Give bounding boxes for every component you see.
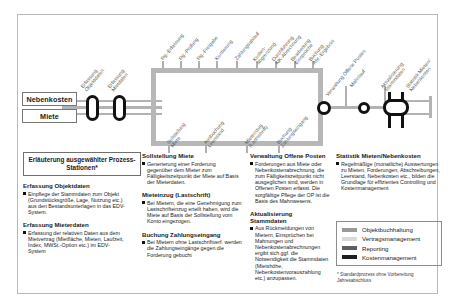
legend-label: Objektbuchhaltung	[362, 226, 413, 233]
explanation-title-box: Erläuterung ausgewählter Prozess-Station…	[23, 152, 141, 176]
node-verwaltung-offene-posten[interactable]	[317, 101, 331, 115]
tick-right-1	[345, 86, 347, 106]
node-statistik[interactable]	[383, 99, 409, 116]
block-text: Einpflege der Stammdaten zum Objekt (Gru…	[23, 191, 127, 216]
block-heading: Sollstellung Miete	[142, 152, 242, 159]
input-box-nebenkosten[interactable]: Nebenkosten	[22, 92, 77, 106]
bullet-icon	[142, 162, 145, 165]
text-column-4: Statistik Mieten/Nebenkosten Regelmäßige…	[336, 152, 442, 198]
pipe-miete	[62, 113, 162, 116]
text-column-2: Sollstellung Miete Generierung einer For…	[142, 152, 242, 264]
block-heading: Buchung Zahlungseingang	[142, 231, 242, 238]
text-block-verwaltung-offene-posten: Verwaltung Offene Posten Forderungen aus…	[250, 152, 330, 204]
label-right-aktualisierung-stammdaten: Aktualisierung Stammdaten	[380, 61, 409, 92]
tick-top-1	[162, 61, 164, 69]
block-text: Forderungen aus Miete oder Nebenkostenab…	[250, 161, 330, 204]
text-column-1: Erfassung Objektdaten Einpflege der Stam…	[23, 182, 127, 261]
label-right-statistik-mieten-nebenkosten: Statistik Mieten/ Nebenkosten	[405, 58, 436, 92]
label-erfassung-objektdaten: Erfassung Objektdaten	[80, 65, 106, 93]
bullet-icon	[23, 192, 26, 195]
text-block-statistik: Statistik Mieten/Nebenkosten Regelmäßige…	[336, 152, 442, 192]
block-text: Bei Mietern, die eine Genehmigung zum La…	[142, 200, 242, 225]
node-erfassung-mietdaten[interactable]	[113, 95, 126, 121]
tick-top-5	[236, 61, 238, 69]
bullet-icon	[250, 162, 253, 165]
block-heading: Erfassung Objektdaten	[23, 182, 127, 189]
block-text: Bei Mietern ohne Lastschriftverf. werden…	[142, 239, 242, 258]
tick-bottom-3	[246, 145, 248, 153]
text-block-buchung-zahlungseingang: Buchung Zahlungseingang Bei Mietern ohne…	[142, 231, 242, 258]
block-text: Regelmäßige (monatliche) Auswertungen zu…	[336, 161, 442, 192]
bullet-icon	[250, 227, 253, 230]
legend-item-kostenmanagement: Kostenmanagement	[342, 254, 436, 261]
text-block-erfassung-mieterdaten: Erfassung Mieterdaten Erfassung der rela…	[23, 221, 127, 254]
explanation-title: Erläuterung ausgewählter Prozess-Station…	[27, 156, 137, 172]
bullet-icon	[142, 201, 145, 204]
tick-top-2	[180, 61, 182, 69]
text-block-mieteinzug: Mieteinzug (Lastschrift) Bei Mietern, di…	[142, 191, 242, 224]
process-flow-diagram: Nebenkosten Miete Erfassung Objektdaten …	[0, 0, 455, 150]
label-erfassung-mietdaten: Erfassung Mietdaten	[107, 68, 130, 93]
block-heading: Verwaltung Offene Posten	[250, 152, 330, 159]
legend-swatch-icon	[342, 228, 357, 232]
legend-item-reporting: Reporting	[342, 245, 436, 252]
text-block-erfassung-objektdaten: Erfassung Objektdaten Einpflege der Stam…	[23, 182, 127, 215]
legend-swatch-icon	[342, 255, 357, 259]
color-legend: Objektbuchhaltung Vertragsmanagement Rep…	[336, 221, 442, 266]
legend-item-objektbuchhaltung: Objektbuchhaltung	[342, 226, 436, 233]
node-erfassung-objektdaten[interactable]	[86, 95, 99, 121]
legend-label: Kostenmanagement	[362, 254, 417, 261]
pipe-center	[62, 106, 162, 109]
bullet-icon	[336, 162, 339, 165]
label-right-mahnlauf: Mahnlauf	[349, 69, 367, 89]
block-heading: Mieteinzug (Lastschrift)	[142, 191, 242, 198]
input-box-miete-label: Miete	[40, 112, 59, 121]
legend-swatch-icon	[342, 237, 357, 241]
legend-swatch-icon	[342, 246, 357, 250]
pipe-nebenkosten	[62, 100, 162, 103]
tick-top-4	[216, 61, 218, 69]
text-column-3: Verwaltung Offene Posten Forderungen aus…	[250, 152, 330, 287]
legend-item-vertragsmanagement: Vertragsmanagement	[342, 235, 436, 242]
figure-root: Nebenkosten Miete Erfassung Objektdaten …	[0, 0, 455, 308]
label-top-buchung-abr-ergebnis: Buchung Abr.-Ergebnis	[308, 35, 336, 66]
block-text: Aus Rückmeldungen von Mietern, Einsprüch…	[250, 225, 330, 281]
legend-label: Vertragsmanagement	[362, 235, 420, 242]
text-block-sollstellung-miete: Sollstellung Miete Generierung einer For…	[142, 152, 242, 185]
tick-top-3	[198, 61, 200, 69]
block-text: Erfassung der relativen Daten aus dem Mi…	[23, 230, 127, 255]
bullet-icon	[142, 241, 145, 244]
block-text: Generierung einer Forderung gegenüber de…	[142, 161, 242, 186]
legend-label: Reporting	[362, 245, 388, 252]
node-mahnlauf[interactable]	[358, 102, 370, 114]
input-box-miete[interactable]: Miete	[22, 109, 77, 123]
pipe-right-end	[429, 96, 432, 118]
bullet-icon	[23, 231, 26, 234]
input-box-nebenkosten-label: Nebenkosten	[26, 95, 72, 104]
block-heading: Aktualisierung Stammdaten	[250, 210, 330, 224]
block-heading: Erfassung Mieterdaten	[23, 221, 127, 228]
footnote: * Standardprozess ohne Vorbereitung Jahr…	[337, 272, 441, 283]
text-block-aktualisierung-stammdaten: Aktualisierung Stammdaten Aus Rückmeldun…	[250, 210, 330, 281]
label-top-kontierung: Kontierung	[214, 39, 234, 61]
block-heading: Statistik Mieten/Nebenkosten	[336, 152, 442, 159]
